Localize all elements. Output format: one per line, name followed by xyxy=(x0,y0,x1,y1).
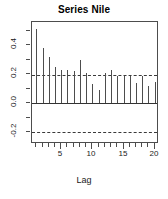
x-axis-tick-minor xyxy=(42,143,43,147)
acf-bar xyxy=(55,67,56,103)
acf-bar xyxy=(142,76,143,104)
acf-bar xyxy=(148,86,149,103)
acf-bar xyxy=(86,73,87,104)
acf-bar xyxy=(74,71,75,103)
y-axis-label: -0.2 xyxy=(9,120,18,142)
plot-area xyxy=(31,21,158,143)
x-axis-tick-minor xyxy=(104,143,105,147)
x-axis-label: 15 xyxy=(113,149,133,158)
x-axis-tick-minor xyxy=(35,143,36,147)
y-axis-tick xyxy=(26,131,30,132)
confidence-upper xyxy=(32,75,157,76)
x-axis-tick-minor xyxy=(79,143,80,147)
acf-bar xyxy=(124,76,125,104)
y-axis-tick-minor xyxy=(26,117,30,118)
acf-bar xyxy=(67,70,68,103)
x-axis-tick-minor xyxy=(98,143,99,147)
acf-bar xyxy=(105,73,106,104)
y-axis-tick-minor xyxy=(26,30,30,31)
x-axis-tick-minor xyxy=(129,143,130,147)
y-axis-label: 0.2 xyxy=(9,62,18,84)
acf-bar xyxy=(61,70,62,103)
zero-line xyxy=(32,103,157,104)
x-axis-tick-minor xyxy=(85,143,86,147)
plot-inner xyxy=(32,22,157,142)
acf-bar xyxy=(136,83,137,103)
page-title: Series Nile xyxy=(0,4,168,16)
y-axis-tick xyxy=(26,102,30,103)
x-axis-tick-minor xyxy=(73,143,74,147)
acf-bar xyxy=(49,57,50,103)
x-axis-tick-minor xyxy=(141,143,142,147)
acf-bar xyxy=(92,84,93,103)
x-axis-tick-minor xyxy=(110,143,111,147)
acf-bar xyxy=(80,60,81,104)
x-axis-label: 5 xyxy=(50,149,70,158)
y-axis-label: 0.4 xyxy=(9,33,18,55)
x-axis-tick-minor xyxy=(116,143,117,147)
x-axis-tick-minor xyxy=(48,143,49,147)
acf-bar xyxy=(43,48,44,103)
x-axis-title: Lag xyxy=(0,175,168,185)
x-axis-tick-minor xyxy=(147,143,148,147)
acf-plot: Series Nile Lag -0.20.00.20.45101520 xyxy=(0,0,168,199)
acf-bar xyxy=(155,82,156,104)
y-axis-label: 0.0 xyxy=(9,91,18,113)
y-axis-tick xyxy=(26,44,30,45)
y-axis-tick xyxy=(26,73,30,74)
x-axis-tick-minor xyxy=(135,143,136,147)
acf-bar xyxy=(111,70,112,103)
acf-bar xyxy=(130,76,131,104)
x-axis-tick-minor xyxy=(54,143,55,147)
y-axis-tick-minor xyxy=(26,59,30,60)
x-axis-label: 10 xyxy=(81,149,101,158)
confidence-lower xyxy=(32,132,157,133)
acf-bar xyxy=(36,29,37,103)
acf-bar xyxy=(117,76,118,104)
y-axis-tick-minor xyxy=(26,88,30,89)
acf-bar xyxy=(99,90,100,103)
x-axis-tick-minor xyxy=(66,143,67,147)
x-axis-label: 20 xyxy=(144,149,164,158)
